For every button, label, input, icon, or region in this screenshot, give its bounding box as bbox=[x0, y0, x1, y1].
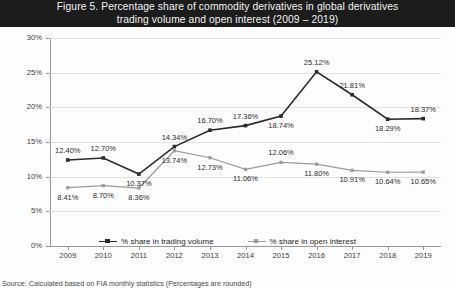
legend-marker-icon bbox=[99, 237, 117, 246]
series-marker bbox=[173, 145, 177, 149]
series-marker bbox=[279, 114, 283, 118]
series-marker bbox=[279, 161, 282, 164]
series-marker bbox=[386, 171, 389, 174]
data-point-label: 8.36% bbox=[128, 193, 149, 202]
legend-label: % share in open interest bbox=[270, 237, 356, 246]
data-point-label: 21.81% bbox=[339, 81, 364, 90]
series-marker bbox=[315, 163, 318, 166]
figure-title: Figure 5. Percentage share of commodity … bbox=[43, 1, 413, 26]
series-marker bbox=[66, 186, 69, 189]
x-axis-tick-label: 2012 bbox=[154, 251, 194, 260]
x-axis-tick-label: 2014 bbox=[226, 251, 266, 260]
data-point-label: 8.70% bbox=[93, 191, 114, 200]
figure-title-line-2: trading volume and open interest (2009 –… bbox=[117, 14, 339, 25]
x-axis-tick-label: 2013 bbox=[190, 251, 230, 260]
series-marker bbox=[102, 184, 105, 187]
legend-item[interactable]: % share in open interest bbox=[248, 237, 356, 246]
series-layer bbox=[50, 38, 441, 246]
plot-area: 0%5%10%15%20%25%30% 20092010201120122013… bbox=[50, 38, 441, 246]
x-axis-tick-label: 2018 bbox=[368, 251, 408, 260]
data-point-label: 16.70% bbox=[197, 116, 222, 125]
data-point-label: 10.65% bbox=[411, 177, 436, 186]
data-point-label: 12.40% bbox=[55, 146, 80, 155]
y-axis-tick-label: 5% bbox=[12, 206, 42, 215]
series-marker bbox=[244, 124, 248, 128]
data-point-label: 12.73% bbox=[197, 163, 222, 172]
x-axis-tick-label: 2011 bbox=[119, 251, 159, 260]
data-point-label: 13.74% bbox=[162, 156, 187, 165]
series-marker bbox=[102, 156, 106, 160]
data-point-label: 11.06% bbox=[233, 174, 258, 183]
y-axis-tick-label: 15% bbox=[12, 137, 42, 146]
series-marker bbox=[244, 168, 247, 171]
data-point-label: 14.34% bbox=[162, 133, 187, 142]
series-marker bbox=[173, 149, 176, 152]
data-point-label: 10.64% bbox=[375, 177, 400, 186]
series-marker bbox=[422, 171, 425, 174]
data-point-label: 18.74% bbox=[268, 121, 293, 130]
figure-title-line-1: Figure 5. Percentage share of commodity … bbox=[57, 1, 399, 12]
figure-container: Figure 5. Percentage share of commodity … bbox=[0, 0, 455, 291]
data-point-label: 25.12% bbox=[304, 58, 329, 67]
series-marker bbox=[208, 156, 211, 159]
data-point-label: 12.06% bbox=[268, 148, 293, 157]
data-point-label: 8.41% bbox=[57, 193, 78, 202]
series-line bbox=[68, 72, 423, 174]
series-marker bbox=[66, 158, 70, 162]
data-point-label: 12.70% bbox=[91, 144, 116, 153]
y-axis-tick-label: 10% bbox=[12, 172, 42, 181]
y-axis-tick-label: 20% bbox=[12, 102, 42, 111]
series-marker bbox=[421, 117, 425, 121]
series-marker bbox=[351, 169, 354, 172]
legend-label: % share in trading volume bbox=[121, 237, 214, 246]
x-axis-tick-label: 2016 bbox=[297, 251, 337, 260]
x-axis-tick-label: 2017 bbox=[332, 251, 372, 260]
x-axis-tick-label: 2019 bbox=[403, 251, 443, 260]
series-marker bbox=[208, 128, 212, 132]
series-marker bbox=[137, 172, 141, 176]
data-point-label: 18.29% bbox=[375, 124, 400, 133]
x-axis-tick-label: 2015 bbox=[261, 251, 301, 260]
data-point-label: 11.80% bbox=[304, 169, 329, 178]
figure-title-band: Figure 5. Percentage share of commodity … bbox=[0, 0, 455, 27]
data-point-label: 10.91% bbox=[339, 175, 364, 184]
x-axis-tick-label: 2010 bbox=[83, 251, 123, 260]
chart-legend: % share in trading volume% share in open… bbox=[0, 233, 455, 249]
y-axis-tick-label: 25% bbox=[12, 68, 42, 77]
series-marker bbox=[350, 93, 354, 97]
source-note: Source: Calculated based on FIA monthly … bbox=[2, 279, 454, 288]
x-axis-tick-label: 2009 bbox=[48, 251, 88, 260]
data-point-label: 17.36% bbox=[233, 112, 258, 121]
data-point-label: 18.37% bbox=[411, 105, 436, 114]
y-axis-tick-label: 30% bbox=[12, 33, 42, 42]
series-marker bbox=[315, 70, 319, 74]
legend-item[interactable]: % share in trading volume bbox=[99, 237, 214, 246]
data-point-label: 10.37% bbox=[126, 179, 151, 188]
legend-marker-icon bbox=[248, 237, 266, 246]
series-marker bbox=[386, 117, 390, 121]
